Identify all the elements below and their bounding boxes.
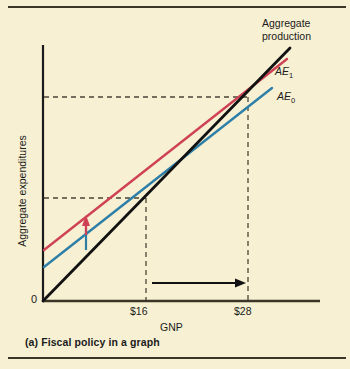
x-tick-label-28: $28 xyxy=(234,305,252,317)
figure-panel: Aggregate production AE1 AE0 Aggregate e… xyxy=(0,0,350,369)
figure-caption: (a) Fiscal policy in a graph xyxy=(25,336,160,348)
aggregate-production-label-line1: Aggregate xyxy=(262,17,311,30)
x-axis-label: GNP xyxy=(160,321,183,333)
x-tick-label-16: $16 xyxy=(130,305,148,317)
ae1-label: AE1 xyxy=(275,65,293,80)
aggregate-production-line xyxy=(43,48,290,301)
ae0-label-sub: 0 xyxy=(291,96,295,105)
gnp-increase-arrow xyxy=(152,279,246,288)
ae0-label: AE0 xyxy=(277,90,295,105)
ae0-label-text: AE xyxy=(277,90,291,102)
ae0-line xyxy=(44,88,272,267)
aggregate-production-label: Aggregate production xyxy=(262,17,311,42)
origin-label: 0 xyxy=(31,293,37,305)
keynesian-cross-chart xyxy=(0,0,350,369)
aggregate-production-label-line2: production xyxy=(262,30,311,43)
y-axis-label: Aggregate expenditures xyxy=(16,126,28,256)
ae1-label-sub: 1 xyxy=(289,71,293,80)
ae1-label-text: AE xyxy=(275,65,289,77)
axis-lines xyxy=(43,45,320,301)
